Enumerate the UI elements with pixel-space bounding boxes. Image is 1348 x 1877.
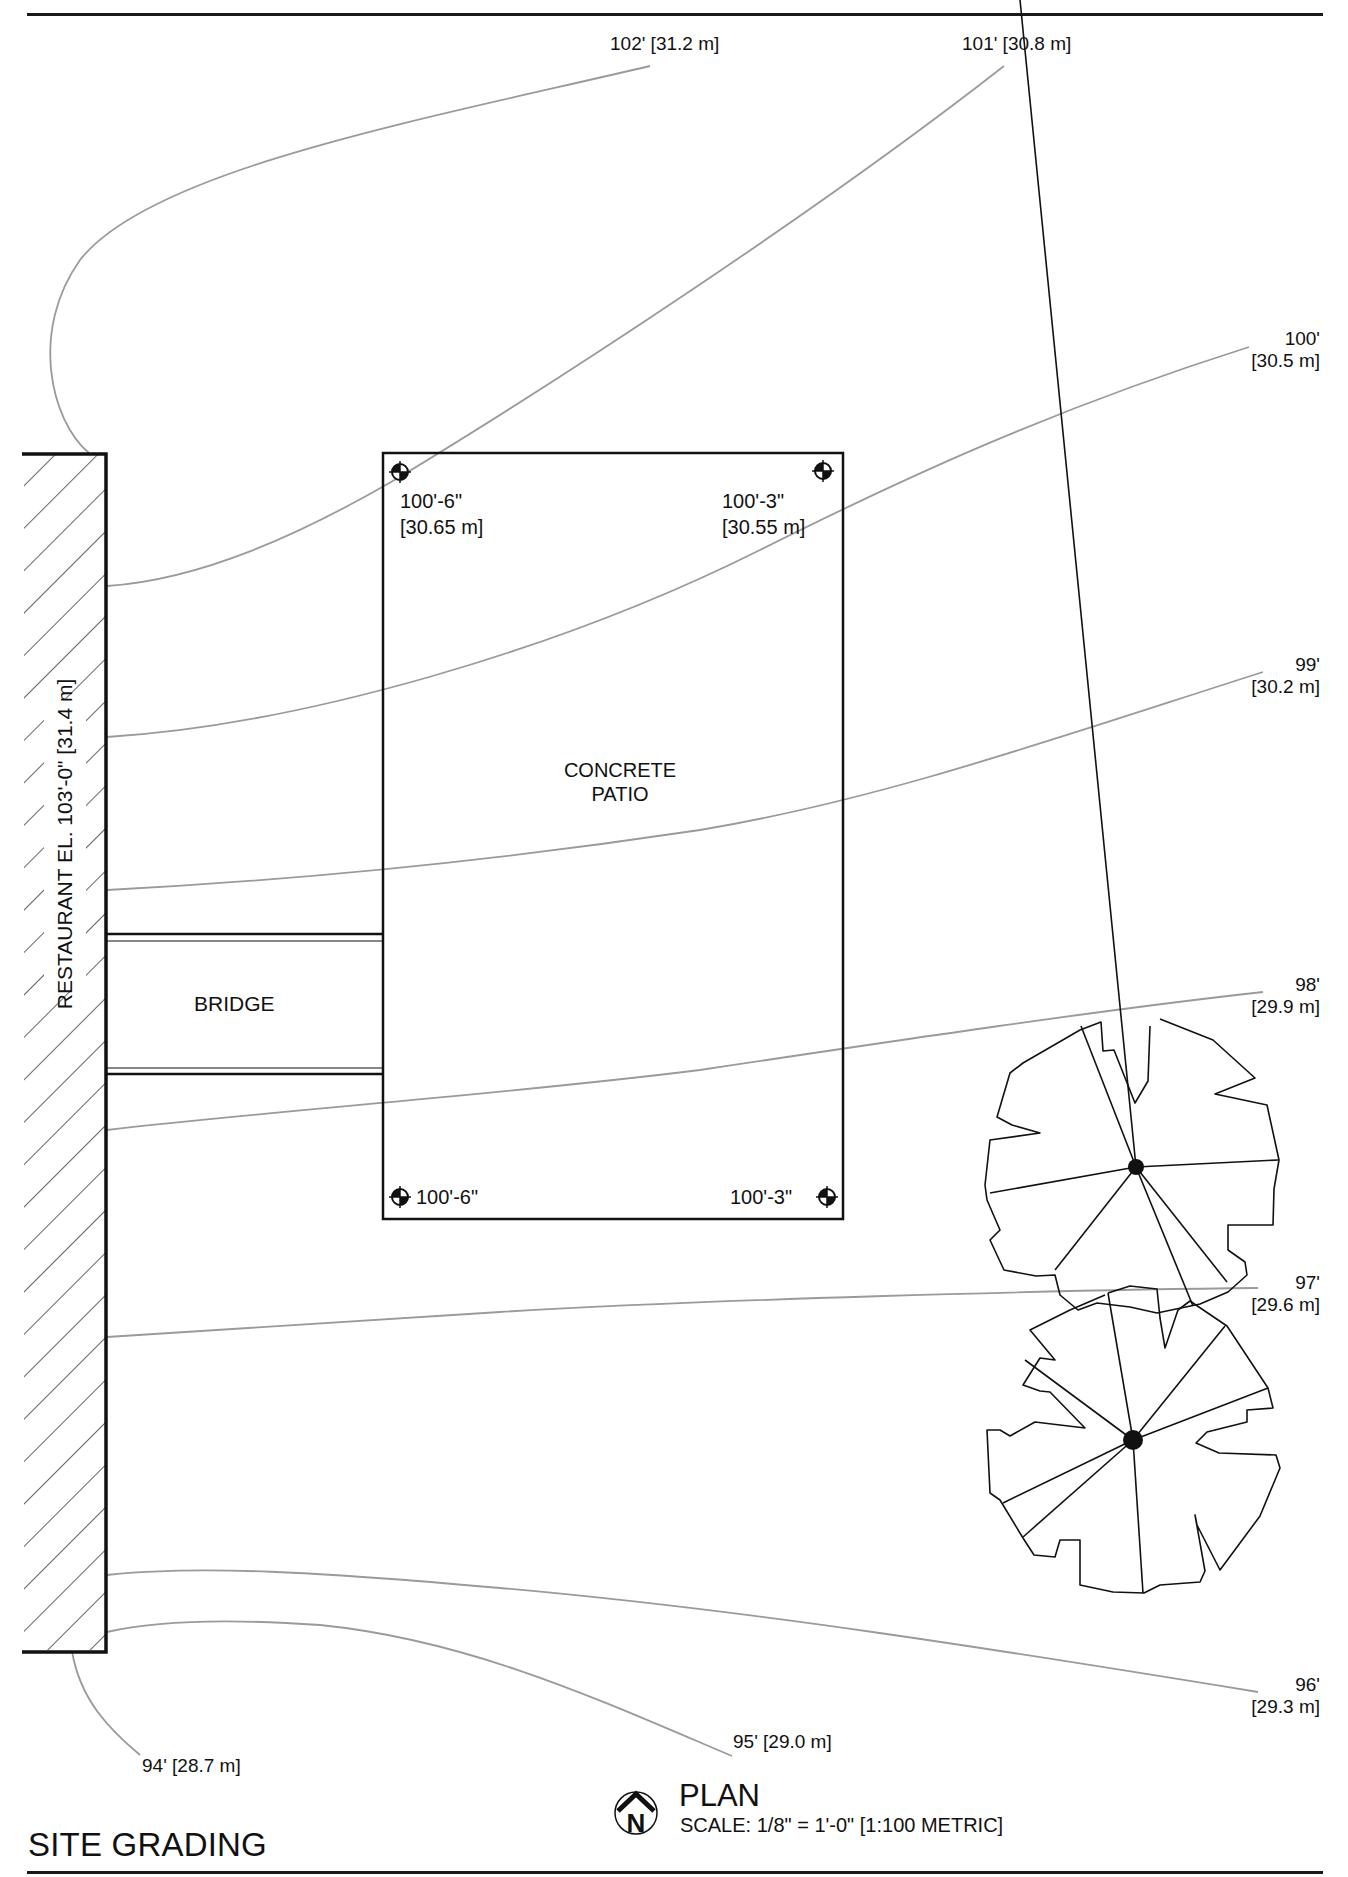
contour-label-101: 101' [30.8 m] (962, 33, 1071, 55)
concrete-patio (383, 453, 843, 1219)
spot-elevation-bottom-right: 100'-3" (730, 1186, 792, 1208)
contour-label-97: 97' [29.6 m] (1251, 1272, 1320, 1316)
contour-label-99: 99' [30.2 m] (1251, 654, 1320, 698)
contour-label-98: 98' [29.9 m] (1251, 974, 1320, 1018)
patio-label-line1: CONCRETE (530, 758, 710, 782)
contour-94 (72, 1651, 140, 1755)
svg-text:N: N (627, 1808, 646, 1838)
restaurant-wall (22, 454, 106, 1652)
contour-label-95: 95' [29.0 m] (733, 1731, 832, 1753)
contour-100 (107, 347, 1249, 737)
spot-elevation-top-left: 100'-6" [30.65 m] (400, 488, 483, 540)
spot-marker-icon (816, 1186, 838, 1208)
spot-elevation-top-right: 100'-3" [30.55 m] (722, 488, 805, 540)
view-label: PLAN (679, 1778, 760, 1814)
drawing-title: SITE GRADING (28, 1826, 267, 1864)
contour-96 (107, 1570, 1258, 1692)
restaurant-label: RESTAURANT EL. 103'-0" [31.4 m] (53, 679, 77, 1009)
contour-label-94: 94' [28.7 m] (142, 1755, 241, 1777)
spot-marker-icon (812, 460, 834, 482)
contour-98 (107, 992, 1263, 1130)
contour-97 (107, 1288, 1258, 1337)
site-plan-drawing: N (0, 0, 1348, 1877)
spot-elevation-bottom-left: 100'-6" (416, 1186, 478, 1208)
tree-canopy-icon (987, 1286, 1280, 1593)
bridge-label: BRIDGE (194, 993, 275, 1015)
contour-lines (50, 66, 1263, 1756)
spot-marker-icon (389, 461, 411, 483)
contour-102 (50, 66, 650, 453)
north-arrow-icon: N (615, 1792, 657, 1838)
tree-canopy-icon (985, 0, 1279, 1313)
spot-marker-icon (389, 1186, 411, 1208)
contour-101 (107, 66, 1004, 586)
contour-label-96: 96' [29.3 m] (1251, 1674, 1320, 1718)
patio-label: CONCRETE PATIO (530, 758, 710, 806)
contour-95 (107, 1621, 732, 1756)
scale-note: SCALE: 1/8" = 1'-0" [1:100 METRIC] (680, 1814, 1003, 1837)
patio-label-line2: PATIO (530, 782, 710, 806)
contour-label-102: 102' [31.2 m] (610, 33, 719, 55)
contour-label-100: 100' [30.5 m] (1251, 328, 1320, 372)
